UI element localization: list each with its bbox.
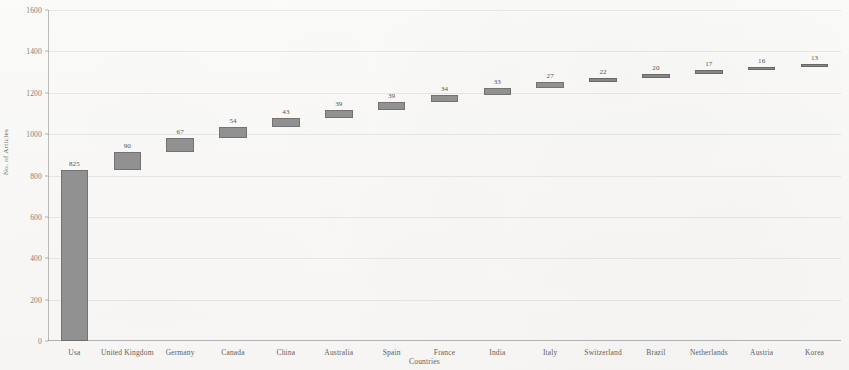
bar-value-label: 43 [282, 108, 289, 116]
bar [589, 78, 616, 83]
bar-value-label: 20 [652, 64, 659, 72]
x-axis-title: Countries [0, 357, 849, 366]
y-tick-label: 1200 [26, 88, 42, 97]
bar [695, 70, 722, 74]
y-tick-mark [45, 299, 48, 300]
gridline [48, 217, 841, 218]
x-tick-label: Korea [805, 348, 824, 357]
bar [378, 102, 405, 110]
y-tick-mark [45, 134, 48, 135]
bar [536, 82, 563, 88]
gridline [48, 176, 841, 177]
bar-value-label: 90 [124, 142, 131, 150]
bar-value-label: 39 [335, 100, 342, 108]
x-axis-line [48, 340, 841, 341]
gridline [48, 10, 841, 11]
x-tick-label: India [489, 348, 505, 357]
bar [325, 110, 352, 118]
y-tick-label: 1000 [26, 130, 42, 139]
y-tick-label: 0 [38, 337, 42, 346]
y-tick-mark [45, 216, 48, 217]
y-tick-label: 600 [30, 212, 42, 221]
y-tick-label: 200 [30, 295, 42, 304]
x-tick-label: France [434, 348, 455, 357]
bar-value-label: 54 [229, 117, 236, 125]
bar-value-label: 825 [69, 160, 80, 168]
y-axis-title: No. of Articles [2, 129, 10, 175]
bar [748, 67, 775, 70]
x-tick-label: Italy [543, 348, 558, 357]
y-tick-mark [45, 258, 48, 259]
x-tick-label: Germany [166, 348, 195, 357]
y-tick-label: 800 [30, 171, 42, 180]
bar-value-label: 16 [758, 57, 765, 65]
bar-value-label: 22 [599, 68, 606, 76]
x-tick-label: Usa [68, 348, 80, 357]
x-tick-label: Canada [221, 348, 244, 357]
x-tick-label: Switzerland [584, 348, 621, 357]
x-tick-label: Brazil [646, 348, 665, 357]
y-tick-mark [45, 175, 48, 176]
x-tick-label: Spain [383, 348, 401, 357]
bar [219, 127, 246, 138]
y-tick-mark [45, 10, 48, 11]
y-tick-label: 400 [30, 254, 42, 263]
y-tick-mark [45, 341, 48, 342]
bar-value-label: 39 [388, 92, 395, 100]
bar-value-label: 33 [494, 78, 501, 86]
bar-value-label: 34 [441, 85, 448, 93]
bar [272, 118, 299, 127]
y-tick-mark [45, 51, 48, 52]
bar [166, 138, 193, 152]
x-tick-label: Australia [324, 348, 353, 357]
y-tick-label: 1600 [26, 6, 42, 15]
gridline [48, 134, 841, 135]
y-tick-mark [45, 92, 48, 93]
bar-value-label: 27 [547, 72, 554, 80]
plot-area: 02004006008001000120014001600 8259067544… [48, 10, 841, 341]
y-tick-label: 1400 [26, 47, 42, 56]
gridline [48, 93, 841, 94]
bar [114, 152, 141, 171]
bar [801, 64, 828, 67]
x-tick-label: China [277, 348, 296, 357]
gridline [48, 51, 841, 52]
bar [484, 88, 511, 95]
x-tick-label: United Kingdom [101, 348, 154, 357]
bar [431, 95, 458, 102]
bar [642, 74, 669, 78]
gridline [48, 300, 841, 301]
x-tick-label: Austria [750, 348, 773, 357]
gridline [48, 258, 841, 259]
bar-value-label: 13 [811, 54, 818, 62]
bar-value-label: 17 [705, 60, 712, 68]
bar-value-label: 67 [177, 128, 184, 136]
x-tick-label: Netherlands [690, 348, 728, 357]
bar [61, 170, 88, 341]
chart-page: No. of Articles 020040060080010001200140… [0, 0, 849, 370]
